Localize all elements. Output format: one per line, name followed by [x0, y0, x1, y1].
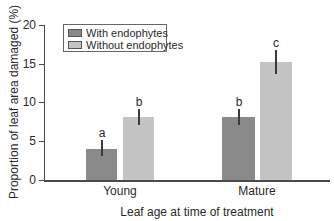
y-tick [39, 25, 44, 26]
y-tick [39, 180, 44, 181]
x-category-label: Mature [222, 184, 292, 198]
y-tick [39, 102, 44, 103]
legend: With endophytes Without endophytes [63, 24, 167, 52]
legend-item: Without endophytes [68, 39, 183, 51]
y-axis-line [44, 25, 45, 181]
bar-young-without-endophytes [123, 117, 154, 180]
error-bar [138, 109, 140, 125]
y-tick [39, 64, 44, 65]
error-bar [238, 109, 240, 125]
y-tick [39, 141, 44, 142]
bar-mature-with-endophytes [222, 117, 255, 180]
legend-swatch [68, 29, 82, 37]
significance-label: a [92, 126, 112, 140]
error-bar [275, 50, 277, 74]
significance-label: b [129, 95, 149, 109]
legend-item: With endophytes [68, 27, 168, 39]
error-bar [101, 140, 103, 156]
y-axis-label: Proportion of leaf area damaged (%) [7, 2, 21, 202]
x-category-label: Young [85, 184, 155, 198]
x-axis-label: Leaf age at time of treatment [30, 205, 334, 219]
legend-label: Without endophytes [86, 39, 183, 51]
bar-mature-without-endophytes [260, 62, 292, 180]
significance-label: b [229, 95, 249, 109]
legend-label: With endophytes [86, 27, 168, 39]
legend-swatch [68, 41, 82, 49]
x-axis-line [44, 180, 330, 182]
significance-label: c [266, 36, 286, 50]
